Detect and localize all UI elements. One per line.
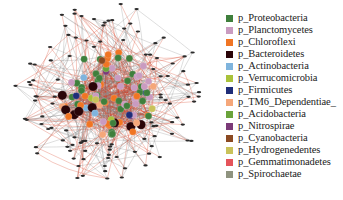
- network-node: [34, 146, 38, 148]
- network-node: [121, 39, 125, 41]
- network-node: [68, 150, 72, 152]
- legend-item: p_Firmicutes: [226, 84, 343, 96]
- network-node: [92, 46, 96, 48]
- legend-item: p_Actinobacteria: [226, 60, 343, 72]
- network-node: [53, 96, 57, 98]
- network-node: [76, 165, 80, 167]
- network-node: [28, 84, 32, 86]
- network-node: [181, 70, 185, 72]
- network-node: [82, 93, 89, 100]
- legend-item: p_Cyanobacteria: [226, 132, 343, 144]
- network-node: [72, 13, 76, 15]
- network-node: [153, 42, 157, 44]
- network-node: [149, 121, 153, 123]
- legend-swatch: [226, 63, 233, 70]
- network-node: [151, 68, 155, 70]
- network-node: [144, 89, 151, 96]
- network-node: [155, 57, 159, 59]
- network-node: [92, 18, 96, 20]
- network-node: [129, 128, 136, 135]
- network-node: [73, 92, 80, 99]
- network-node: [168, 103, 172, 105]
- network-node: [108, 146, 112, 148]
- network-node: [70, 144, 74, 146]
- network-node: [110, 19, 114, 21]
- legend-label: p_Bacteroidetes: [238, 48, 304, 60]
- network-node: [109, 131, 116, 138]
- network-node: [134, 8, 138, 10]
- legend-item: p_Nitrospirae: [226, 120, 343, 132]
- network-node: [149, 105, 156, 112]
- network-node: [103, 165, 107, 167]
- network-node: [109, 65, 116, 72]
- network-node: [25, 119, 29, 121]
- network-node: [124, 102, 131, 109]
- network-node: [110, 120, 117, 127]
- network-node: [116, 98, 123, 105]
- network-node: [35, 152, 39, 154]
- legend-swatch: [226, 123, 233, 130]
- network-node: [142, 138, 146, 140]
- network-node: [98, 41, 102, 43]
- network-node: [80, 74, 87, 81]
- network-node: [119, 3, 123, 5]
- legend-label: p_Hydrogenedentes: [238, 144, 320, 156]
- network-node: [175, 117, 179, 119]
- legend-label: p_Actinobacteria: [238, 60, 309, 72]
- legend-label: p_Cyanobacteria: [238, 132, 308, 144]
- network-node: [114, 75, 121, 82]
- network-node: [66, 34, 70, 36]
- network-node: [197, 96, 201, 98]
- network-node: [143, 164, 147, 166]
- legend-label: p_Verrucomicrobia: [238, 72, 317, 84]
- network-node: [181, 124, 185, 126]
- network-node: [74, 107, 83, 116]
- legend-swatch: [226, 75, 233, 82]
- network-node: [65, 146, 69, 148]
- network-node: [61, 139, 65, 141]
- legend: p_Proteobacteria p_Planctomycetes p_Chlo…: [226, 12, 343, 180]
- legend-swatch: [226, 135, 233, 142]
- legend-label: p_Acidobacteria: [238, 108, 306, 120]
- network-node: [58, 91, 67, 100]
- network-node: [103, 170, 107, 172]
- network-node: [158, 75, 162, 77]
- network-node: [145, 113, 152, 120]
- network-node: [74, 37, 78, 39]
- network-node: [171, 62, 175, 64]
- network-node: [132, 100, 139, 107]
- legend-swatch: [226, 147, 233, 154]
- legend-item: p_Hydrogenedentes: [226, 144, 343, 156]
- legend-item: p_Planctomycetes: [226, 24, 343, 36]
- network-node: [115, 55, 122, 62]
- network-node: [108, 149, 112, 151]
- legend-item: p_Bacteroidetes: [226, 48, 343, 60]
- network-node: [131, 84, 138, 91]
- network-node: [186, 84, 190, 86]
- legend-label: p_Gemmatimonadetes: [238, 156, 331, 168]
- network-edges: [16, 4, 200, 178]
- network-node: [186, 96, 190, 98]
- network-node: [139, 98, 146, 105]
- network-node: [72, 158, 76, 160]
- network-node: [166, 75, 170, 77]
- network-node: [148, 54, 152, 56]
- network-node: [144, 54, 148, 56]
- network-node: [46, 128, 50, 130]
- network-node: [126, 112, 133, 119]
- network-node: [189, 140, 193, 142]
- network-node: [100, 118, 107, 125]
- network-node: [194, 82, 198, 84]
- network-node: [136, 72, 143, 79]
- network-node: [197, 91, 201, 93]
- network-node: [123, 167, 127, 169]
- network-node: [92, 96, 99, 103]
- network-node: [185, 139, 189, 141]
- network-node: [56, 79, 60, 81]
- network-node: [28, 63, 32, 65]
- network-node: [88, 82, 97, 91]
- legend-swatch: [226, 27, 233, 34]
- legend-swatch: [226, 99, 233, 106]
- network-node: [33, 100, 37, 102]
- network-node: [48, 46, 52, 48]
